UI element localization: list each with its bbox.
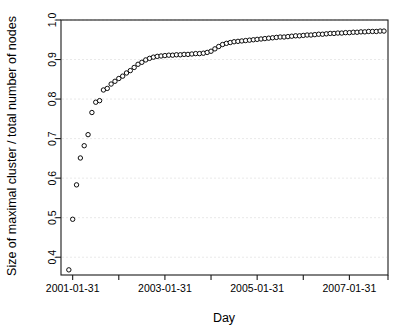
plot-frame xyxy=(61,20,388,275)
scatter-plot: 0.40.50.60.70.80.91.0 2001-01-312003-01-… xyxy=(0,0,405,334)
data-points xyxy=(67,29,387,272)
data-point xyxy=(70,217,74,221)
data-point xyxy=(67,268,71,272)
y-axis-title: Size of maximal cluster / total number o… xyxy=(5,16,19,276)
data-point xyxy=(382,29,386,33)
data-point xyxy=(120,74,124,78)
x-tick-label: 2003-01-31 xyxy=(138,282,192,294)
x-tick-label: 2007-01-31 xyxy=(323,282,377,294)
data-point xyxy=(78,156,82,160)
data-point xyxy=(82,144,86,148)
y-tick-label: 0.5 xyxy=(46,210,58,225)
data-point xyxy=(97,98,101,102)
y-axis-tick-labels: 0.40.50.60.70.80.91.0 xyxy=(46,13,58,265)
data-point xyxy=(90,110,94,114)
x-axis-tick-labels: 2001-01-312003-01-312005-01-312007-01-31 xyxy=(46,282,377,294)
gridlines xyxy=(62,20,387,257)
data-point xyxy=(86,132,90,136)
data-point xyxy=(132,65,136,69)
y-tick-label: 0.9 xyxy=(46,52,58,67)
data-point xyxy=(128,68,132,72)
data-point xyxy=(74,183,78,187)
x-axis-title: Day xyxy=(213,311,236,325)
y-tick-label: 0.8 xyxy=(46,92,58,107)
y-tick-label: 0.7 xyxy=(46,131,58,146)
y-tick-label: 0.6 xyxy=(46,171,58,186)
x-tick-label: 2005-01-31 xyxy=(230,282,284,294)
y-tick-label: 1.0 xyxy=(46,13,58,28)
x-tick-label: 2001-01-31 xyxy=(46,282,100,294)
y-tick-label: 0.4 xyxy=(46,250,58,265)
data-point xyxy=(105,86,109,90)
x-axis-ticks xyxy=(73,275,388,280)
chart-figure: 0.40.50.60.70.80.91.0 2001-01-312003-01-… xyxy=(0,0,405,334)
